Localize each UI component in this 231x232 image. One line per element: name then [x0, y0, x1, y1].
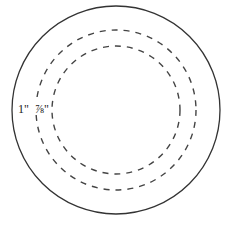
outer-margin-label: 1" — [17, 103, 30, 115]
inner-dashed-circle — [52, 46, 180, 174]
outer-dashed-circle — [36, 30, 196, 190]
concentric-circle-diagram — [0, 0, 231, 232]
inner-margin-label: ⅞" — [34, 103, 50, 115]
